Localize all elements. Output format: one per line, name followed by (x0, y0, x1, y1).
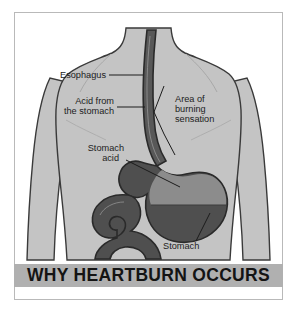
label-acid-from-stomach-line1: Acid from (75, 96, 114, 106)
label-burning-sensation-line1: Area of (175, 94, 205, 104)
figure-title: WHY HEARTBURN OCCURS (27, 265, 270, 285)
label-burning-sensation-line3: sensation (175, 114, 214, 124)
label-acid-from-stomach-line2: the stomach (64, 106, 114, 116)
label-stomach-acid-line2: acid (102, 153, 119, 163)
label-stomach-acid-line1: Stomach (88, 143, 124, 153)
label-stomach: Stomach (163, 241, 199, 251)
title-banner-group: WHY HEARTBURN OCCURS (14, 264, 283, 287)
label-esophagus: Esophagus (60, 70, 106, 80)
heartburn-diagram-figure: Esophagus Acid from the stomach Area of … (0, 0, 298, 311)
label-burning-sensation-line2: burning (175, 104, 206, 114)
anatomy-illustration: Esophagus Acid from the stomach Area of … (14, 12, 283, 300)
